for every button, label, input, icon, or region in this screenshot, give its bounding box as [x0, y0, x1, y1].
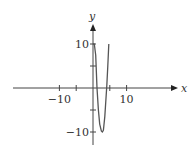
- y-tick-label: 10: [75, 38, 89, 51]
- y-axis-label: y: [88, 10, 96, 23]
- y-axis-arrow-icon: [90, 24, 96, 31]
- chart: −101010−10 x y: [0, 0, 191, 156]
- x-axis-arrow-icon: [171, 85, 178, 91]
- x-tick-label: −10: [48, 93, 71, 106]
- axes: [13, 24, 178, 145]
- x-tick-label: 10: [120, 93, 134, 106]
- y-tick-label: −10: [66, 126, 89, 139]
- x-axis-label: x: [181, 82, 188, 95]
